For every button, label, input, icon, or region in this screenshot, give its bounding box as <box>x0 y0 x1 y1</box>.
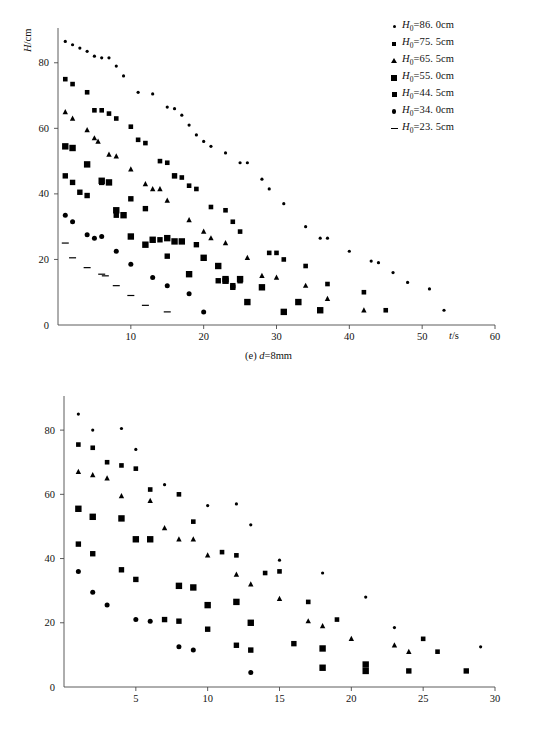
data-point <box>295 299 301 305</box>
data-point <box>277 596 282 601</box>
data-point <box>90 445 95 450</box>
data-point <box>118 515 124 521</box>
data-point <box>114 153 119 158</box>
legend-label: H0=65. 5cm <box>402 53 454 67</box>
data-point <box>119 567 124 572</box>
data-point <box>421 637 426 642</box>
dot-large-icon <box>392 109 397 114</box>
data-point <box>234 572 239 577</box>
data-point <box>128 166 133 171</box>
data-point <box>84 161 90 167</box>
data-point <box>325 296 330 301</box>
data-point <box>151 92 154 95</box>
data-point <box>268 187 271 190</box>
data-point <box>190 584 196 590</box>
data-point <box>70 180 75 185</box>
data-point <box>281 257 286 262</box>
data-point <box>233 599 239 605</box>
data-point <box>136 138 141 143</box>
dash-icon <box>391 128 398 129</box>
legend-marker-icon <box>386 58 402 63</box>
data-point <box>392 642 397 647</box>
series-1 <box>76 442 440 654</box>
data-point <box>249 523 252 526</box>
data-point <box>260 178 263 181</box>
data-point <box>319 665 325 671</box>
data-point <box>179 238 185 244</box>
legend-e: H0=86. 0cmH0=75. 5cmH0=65. 5cmH0=55. 0cm… <box>386 18 454 137</box>
data-point <box>259 284 265 290</box>
tick-label: 15 <box>274 693 285 704</box>
tick-label: 60 <box>39 123 50 134</box>
data-point <box>306 600 311 605</box>
data-point <box>303 264 308 269</box>
data-point <box>319 645 325 651</box>
legend-label: H0=44. 5cm <box>402 87 454 101</box>
data-point <box>201 229 206 234</box>
data-point <box>223 240 228 245</box>
tick-label: 30 <box>271 331 282 342</box>
tick-label: 30 <box>490 693 501 704</box>
legend-item: H0=23. 5cm <box>386 120 454 137</box>
data-point <box>142 241 148 247</box>
tick-label: 0 <box>44 320 49 331</box>
data-point <box>128 262 133 267</box>
data-point <box>319 237 322 240</box>
data-point <box>78 46 81 49</box>
data-point <box>70 82 75 87</box>
data-point <box>208 235 213 240</box>
data-point <box>165 253 170 258</box>
data-point <box>63 109 68 114</box>
legend-marker-icon <box>386 25 402 28</box>
series-5 <box>63 213 206 315</box>
tick-label: 20 <box>39 254 50 265</box>
data-point <box>165 160 170 165</box>
data-point <box>134 466 139 471</box>
data-point <box>223 208 228 213</box>
tick-label: 20 <box>346 693 357 704</box>
data-point <box>377 261 380 264</box>
data-point <box>127 295 134 296</box>
data-point <box>119 463 124 468</box>
data-point <box>148 487 153 492</box>
data-point <box>84 193 89 198</box>
legend-marker-icon <box>386 109 402 114</box>
data-point <box>235 502 238 505</box>
square-large-icon <box>391 75 397 81</box>
tick-label: 80 <box>39 57 50 68</box>
data-point <box>106 179 112 185</box>
data-point <box>114 116 119 121</box>
data-point <box>321 571 324 574</box>
data-point <box>304 225 307 228</box>
data-point <box>63 173 68 178</box>
data-point <box>363 668 369 674</box>
data-point <box>320 623 325 628</box>
data-point <box>267 251 272 256</box>
data-point <box>99 180 104 185</box>
data-point <box>274 274 279 279</box>
legend-marker-icon <box>386 42 402 46</box>
data-point <box>105 603 110 608</box>
tick-label: 20 <box>198 331 209 342</box>
legend-label: H0=23. 5cm <box>402 121 454 135</box>
data-point <box>248 620 254 626</box>
data-point <box>222 276 228 282</box>
tick-label: 40 <box>344 331 355 342</box>
data-point <box>326 237 329 240</box>
data-point <box>234 553 239 558</box>
data-point <box>303 283 308 288</box>
data-point <box>143 206 148 211</box>
x-axis-label-e: t/s <box>449 330 459 341</box>
data-point <box>278 559 281 562</box>
data-point <box>150 186 155 191</box>
data-point <box>231 219 236 224</box>
y-axis-label-e: H/cm <box>22 29 33 52</box>
data-point <box>149 237 155 243</box>
data-point <box>383 308 388 313</box>
legend-label: H0=75. 5cm <box>402 36 454 50</box>
data-point <box>191 519 196 524</box>
data-point <box>90 514 96 520</box>
data-point <box>363 661 369 667</box>
data-point <box>172 173 177 178</box>
data-point <box>157 237 162 242</box>
